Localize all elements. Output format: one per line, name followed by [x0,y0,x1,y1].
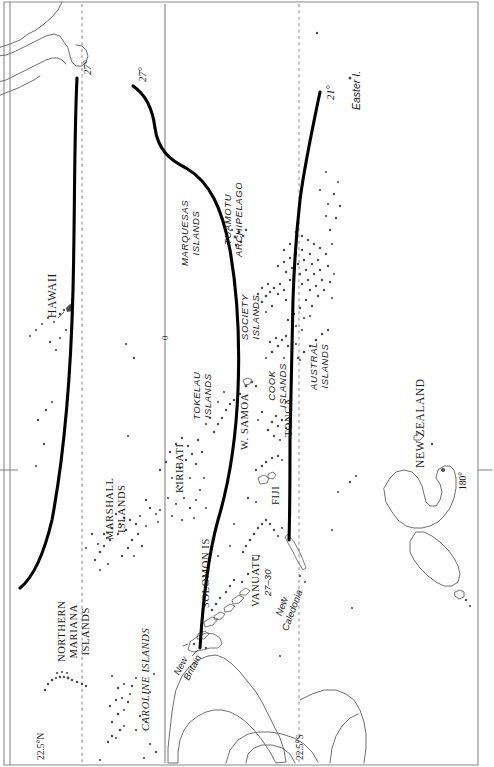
label-marshall-line2: ISLANDS [116,477,128,540]
label-northern-mariana-line1: NORTHERN [56,601,68,662]
label-lat-22-5-N: 22.5°N [36,733,46,760]
label-fiji: FIJI [270,486,281,505]
label-northern-mariana: NORTHERN MARIANA ISLANDS [56,601,91,662]
label-lat-22-5-S: 22.5°S [295,734,305,760]
label-austral-islands: AUSTRAL ISLANDS [309,342,330,390]
label-society-line2: ISLANDS [251,294,262,340]
label-society-islands: SOCIETY ISLANDS [240,294,261,340]
label-easter-island: Easter I. [350,71,362,110]
label-cook-line2: ISLANDS [278,363,289,408]
label-equator: 0 [160,336,170,340]
label-kiribati: KIRIBATI [174,443,185,493]
label-cook-islands: COOK ISLANDS [267,363,288,408]
label-austral-line2: ISLANDS [320,342,331,390]
label-northern-mariana-line3: ISLANDS [80,601,92,662]
label-solomon-islands: SOLOMON IS [200,538,211,608]
label-w-samoa: W. SAMOA [239,393,250,450]
contour-east-label: 21° [325,85,336,100]
label-caroline-islands: CAROLINE ISLANDS [140,628,151,731]
label-marquesas-islands: MARQUESAS ISLANDS [180,200,201,266]
label-marshall-islands: MARSHALL ISLANDS [104,477,128,540]
contour-middle-label: 27° [137,67,148,82]
map-figure: .coast{fill:none;stroke:#6e6e6e;stroke-w… [0,0,494,767]
label-northern-mariana-line2: MARIANA [68,601,80,662]
label-marshall-line1: MARSHALL [104,477,116,540]
label-hawaii: HAWAII [46,273,58,318]
label-tokelau-line2: ISLANDS [203,372,214,420]
label-new-zealand: NEW ZEALAND [414,378,426,468]
label-lon-180: 180° [458,472,468,490]
label-vanuatu: VANUATU [250,553,261,607]
label-tokelau-islands: TOKELAU ISLANDS [192,372,213,420]
label-tuamotu-line2: ARCHIPELAGO [234,182,245,257]
label-marquesas-line2: ISLANDS [191,200,202,266]
contour-west-label: 27° [82,60,93,75]
label-tuamotu-archipelago: TUAMOTU ARCHIPELAGO [223,182,244,257]
label-vanuatu-value: 27–30 [262,570,273,596]
